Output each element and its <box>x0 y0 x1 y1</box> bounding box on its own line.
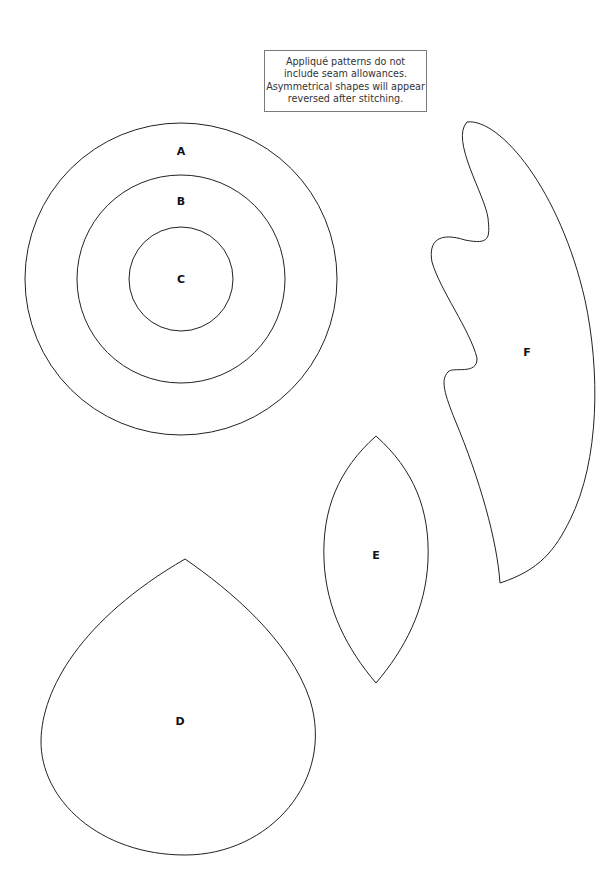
shape-c-label: C <box>177 273 185 286</box>
shape-f-outline <box>431 122 595 583</box>
shape-d-outline <box>41 559 315 855</box>
shape-d-label: D <box>175 715 184 728</box>
shape-a-label: A <box>177 145 186 158</box>
pattern-canvas: A B C F E D <box>0 0 616 887</box>
shape-e-label: E <box>372 549 380 562</box>
shape-b-label: B <box>177 195 185 208</box>
shape-f-label: F <box>523 346 531 359</box>
